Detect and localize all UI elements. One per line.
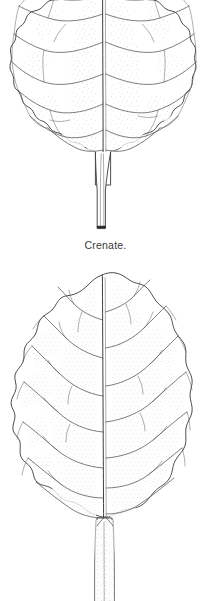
midrib: [103, 0, 104, 152]
figure-sinuate-leaf: [0, 272, 211, 601]
illustration-plate: Crenate.: [0, 0, 211, 601]
crenate-leaf-drawing: [0, 0, 211, 232]
sinuate-petiole: [95, 518, 115, 601]
sinuate-leaf-drawing: [0, 272, 211, 601]
crenate-petiole: [95, 152, 110, 229]
figure-caption-crenate: Crenate.: [0, 239, 211, 251]
figure-crenate-leaf: [0, 0, 211, 232]
sinuate-blade: [11, 273, 192, 520]
